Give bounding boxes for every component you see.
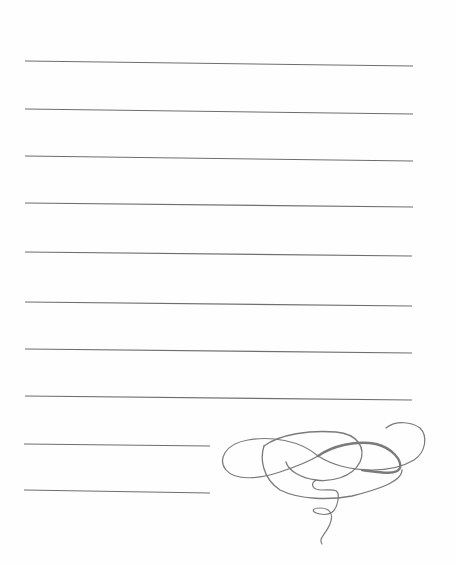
flourish-ornament-icon [223, 423, 425, 544]
stationery-page [0, 0, 456, 565]
ruled-line [25, 349, 412, 353]
ruled-line [25, 109, 413, 114]
ruled-line [25, 61, 413, 66]
ruled-line [24, 444, 210, 446]
ruled-line [25, 252, 412, 256]
ruled-line [25, 203, 413, 207]
ruled-line [24, 490, 210, 493]
ruled-line [25, 302, 412, 306]
ruled-lines [0, 0, 456, 565]
ruled-line [25, 396, 412, 400]
ruled-line [25, 156, 413, 161]
